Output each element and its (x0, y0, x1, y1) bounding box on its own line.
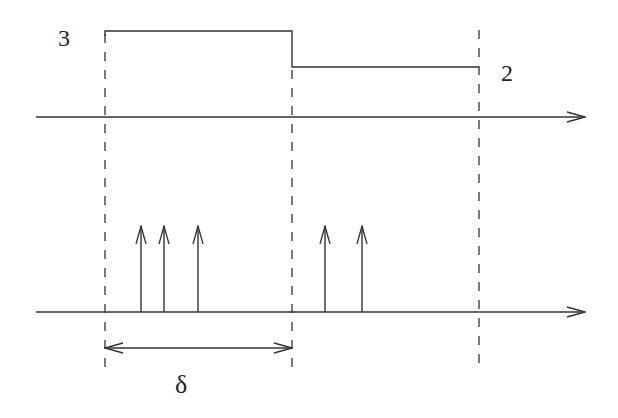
label-level-3: 3 (58, 25, 70, 51)
label-delta: δ (175, 370, 187, 399)
upper-step-signal (105, 31, 479, 67)
label-level-2: 2 (501, 60, 513, 86)
dashed-dividers (105, 30, 479, 370)
impulse-arrows (141, 226, 362, 312)
timeline-diagram: 3 2 δ (0, 0, 618, 418)
